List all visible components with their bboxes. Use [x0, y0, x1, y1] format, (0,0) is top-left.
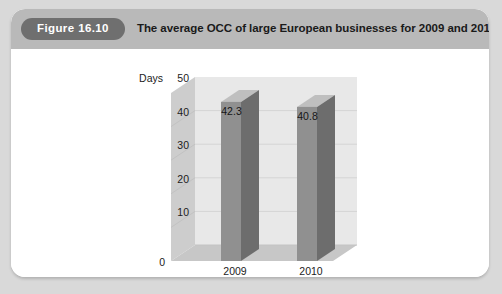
- y-tick-label-10: 10: [177, 206, 189, 218]
- bar-2009-front: [221, 102, 241, 261]
- bar-2009-side: [241, 90, 259, 261]
- bar-chart: Days 50 40 30 20 10 0 42.3: [11, 49, 489, 277]
- chart-left-wall: [171, 77, 195, 261]
- y-tick-label-20: 20: [177, 173, 189, 185]
- bar-2010-value-label: 40.8: [297, 110, 318, 122]
- y-tick-label-0: 0: [159, 256, 165, 268]
- bar-2010-front: [297, 107, 317, 261]
- y-tick-label-50: 50: [177, 72, 189, 84]
- figure-title: The average OCC of large European busine…: [137, 23, 489, 35]
- y-axis-unit-label: Days: [139, 72, 163, 84]
- figure-number-badge: Figure 16.10: [21, 18, 125, 41]
- y-tick-label-30: 30: [177, 139, 189, 151]
- bar-2010[interactable]: 40.8: [297, 95, 335, 261]
- bar-2009[interactable]: 42.3: [221, 90, 259, 261]
- x-category-label-2009: 2009: [223, 265, 247, 277]
- bar-2010-side: [317, 95, 335, 261]
- figure-card: Figure 16.10 The average OCC of large Eu…: [11, 9, 489, 277]
- chart-plot-area: Days 50 40 30 20 10 0 42.3: [11, 49, 489, 277]
- bar-2009-value-label: 42.3: [221, 105, 242, 117]
- figure-header: Figure 16.10 The average OCC of large Eu…: [11, 9, 489, 49]
- x-category-label-2010: 2010: [299, 265, 323, 277]
- y-tick-label-40: 40: [177, 106, 189, 118]
